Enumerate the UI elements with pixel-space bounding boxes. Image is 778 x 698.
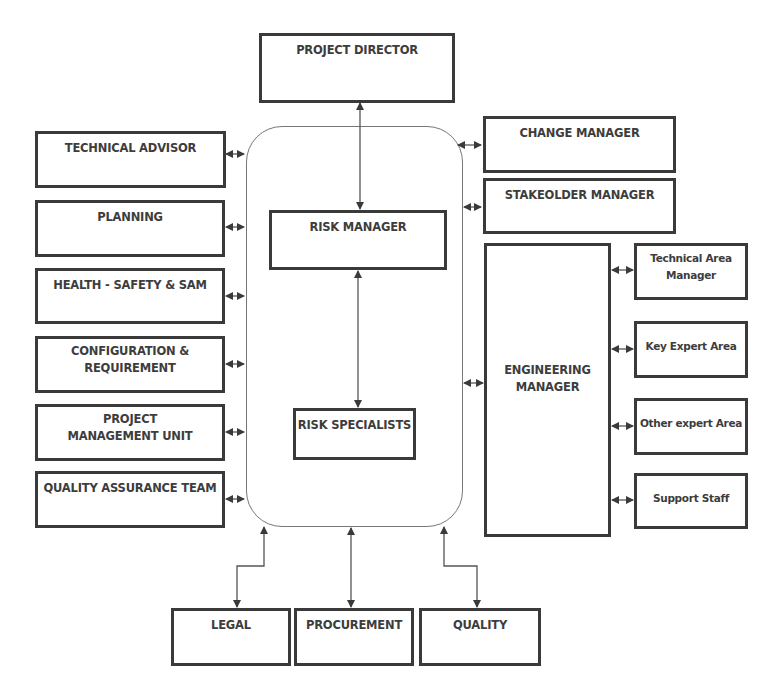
risk-specialists-box: RISK SPECIALISTS [293, 408, 416, 460]
planning-box: PLANNING [35, 200, 225, 257]
change-manager-label: CHANGE MANAGER [519, 126, 639, 140]
change-manager-box: CHANGE MANAGER [483, 116, 676, 173]
procurement-box: PROCUREMENT [294, 608, 414, 666]
procurement-label: PROCUREMENT [306, 618, 402, 632]
key-expert-area-label: Key Expert Area [645, 340, 736, 352]
stakeolder-manager-label: STAKEOLDER MANAGER [505, 188, 655, 202]
project-management-unit-box: PROJECT MANAGEMENT UNIT [35, 404, 225, 461]
health-safety-label: HEALTH - SAFETY & SAM [53, 278, 207, 292]
key-expert-area-box: Key Expert Area [634, 321, 748, 378]
project-director-label: PROJECT DIRECTOR [296, 43, 418, 57]
technical-advisor-box: TECHNICAL ADVISOR [35, 131, 226, 188]
quality-label: QUALITY [453, 618, 507, 632]
configuration-requirement-box: CONFIGURATION & REQUIREMENT [35, 336, 225, 393]
project-director-box: PROJECT DIRECTOR [259, 33, 455, 103]
stakeolder-manager-box: STAKEOLDER MANAGER [483, 178, 676, 234]
planning-label: PLANNING [97, 210, 163, 224]
quality-assurance-team-box: QUALITY ASSURANCE TEAM [35, 471, 225, 528]
risk-manager-box: RISK MANAGER [269, 210, 447, 270]
quality-box: QUALITY [419, 608, 541, 666]
support-staff-box: Support Staff [634, 473, 748, 529]
support-staff-label: Support Staff [653, 492, 729, 504]
engineering-manager-box: ENGINEERING MANAGER [484, 243, 611, 537]
legal-label: LEGAL [211, 618, 251, 632]
configuration-requirement-label: CONFIGURATION & REQUIREMENT [71, 344, 189, 375]
other-expert-area-box: Other expert Area [634, 398, 748, 455]
quality-assurance-team-label: QUALITY ASSURANCE TEAM [43, 481, 216, 495]
risk-specialists-label: RISK SPECIALISTS [298, 418, 411, 432]
technical-area-manager-box: Technical Area Manager [634, 243, 748, 300]
technical-advisor-label: TECHNICAL ADVISOR [65, 141, 196, 155]
health-safety-box: HEALTH - SAFETY & SAM [35, 268, 225, 324]
legal-box: LEGAL [171, 608, 291, 666]
risk-manager-label: RISK MANAGER [310, 220, 407, 234]
other-expert-area-label: Other expert Area [640, 417, 742, 429]
technical-area-manager-label: Technical Area Manager [650, 252, 732, 281]
engineering-manager-label: ENGINEERING MANAGER [504, 363, 591, 394]
project-management-unit-label: PROJECT MANAGEMENT UNIT [67, 412, 192, 443]
